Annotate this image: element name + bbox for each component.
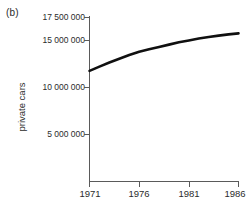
plot-area (0, 0, 248, 211)
y-axis-ticks (84, 18, 90, 135)
data-series-line (90, 33, 239, 70)
chart-figure: (b) private cars 17 500 000 15 000 000 1… (0, 0, 248, 211)
axis-lines (89, 16, 239, 182)
x-axis-ticks (90, 182, 239, 188)
